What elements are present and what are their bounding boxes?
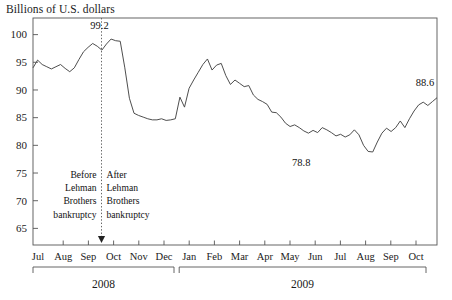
x-tick-label-dec: Dec — [156, 251, 173, 262]
after-note-line-1: Lehman — [107, 182, 139, 193]
year-brackets: 20082009 — [33, 267, 426, 290]
trough-value-label: 78.8 — [292, 157, 310, 168]
y-tick-label: 95 — [16, 56, 28, 68]
data-line-series — [33, 39, 437, 152]
x-tick-label-feb: Feb — [207, 251, 223, 262]
y-tick-label: 90 — [16, 84, 28, 96]
y-tick-label: 100 — [11, 28, 28, 40]
year-label-2009: 2009 — [291, 278, 314, 290]
chart-plot-area: 65707580859095100 JulAugSepOctNovDecJanF… — [0, 0, 452, 300]
x-tick-label-may: May — [280, 251, 300, 262]
x-tick-label-aug: Aug — [357, 251, 376, 262]
x-tick-label-sep: Sep — [81, 251, 97, 262]
y-tick-label: 65 — [16, 222, 28, 234]
after-note-line-3: bankruptcy — [107, 209, 150, 220]
x-tick-label-jan: Jan — [182, 251, 197, 262]
before-note-line-2: Brothers — [63, 195, 96, 206]
data-point-labels: 99.278.888.6 — [90, 20, 434, 168]
x-tick-label-jul: Jul — [334, 251, 346, 262]
final-value-label: 88.6 — [416, 77, 434, 88]
x-axis-ticks: JulAugSepOctNovDecJanFebMarAprMayJunJulA… — [32, 241, 424, 263]
after-note-line-2: Brothers — [107, 195, 140, 206]
y-axis-ticks: 65707580859095100 — [11, 28, 39, 234]
chart-figure: Billions of U.S. dollars 657075808590951… — [0, 0, 452, 300]
x-tick-label-oct: Oct — [106, 251, 121, 262]
year-label-2008: 2008 — [92, 278, 115, 290]
x-tick-label-aug: Aug — [54, 251, 73, 262]
x-tick-label-nov: Nov — [130, 251, 149, 262]
x-tick-label-mar: Mar — [231, 251, 249, 262]
y-tick-label: 70 — [16, 195, 28, 207]
before-note-line-0: Before — [70, 169, 96, 180]
event-marker-line — [98, 18, 105, 243]
before-note-line-1: Lehman — [65, 182, 97, 193]
x-tick-label-jul: Jul — [32, 251, 44, 262]
y-tick-label: 75 — [16, 167, 28, 179]
x-tick-label-sep: Sep — [383, 251, 399, 262]
x-tick-label-jun: Jun — [308, 251, 323, 262]
event-marker-arrow — [98, 236, 105, 243]
y-tick-label: 85 — [16, 111, 28, 123]
y-tick-label: 80 — [16, 139, 28, 151]
x-tick-label-oct: Oct — [408, 251, 423, 262]
after-note-line-0: After — [107, 169, 128, 180]
series-line-0 — [33, 39, 437, 152]
peak-value-label: 99.2 — [90, 20, 108, 31]
x-tick-label-apr: Apr — [257, 251, 274, 262]
before-note-line-3: bankruptcy — [53, 209, 96, 220]
